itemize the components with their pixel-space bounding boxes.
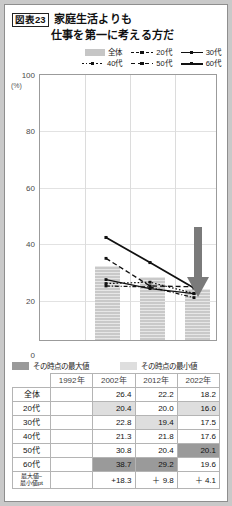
legend-item-zentai: 全体 [85,48,122,57]
legend-item-40s: 40代 [82,59,122,68]
cell-min: 19.4 [135,416,177,430]
y-tick-80: 80 [5,127,35,136]
sublegend-min-label: その時点の最小値 [141,360,197,371]
sublegend-max-label: その時点の最大値 [33,360,89,371]
table-col-2022: 2022年 [177,374,219,388]
y-tick-60: 60 [5,183,35,192]
table-body: 全体 26.4 22.2 18.2 20代 20.4 20.0 16.0 30代… [13,388,220,489]
table-col-2002: 2002年 [93,374,135,388]
table-col-2012: 2012年 [135,374,177,388]
table-row: 40代 21.3 21.8 17.6 [13,430,220,444]
table-corner-cell [13,374,51,388]
table-col-1992: 1992年 [51,374,93,388]
legend-dash-line-icon [131,60,153,68]
legend-label: 20代 [156,48,171,57]
sublegend-max: その時点の最大値 [12,360,120,371]
cell [51,430,93,444]
max-swatch-icon [12,362,29,370]
legend-label: 50代 [156,59,171,68]
table-header-row: 1992年 2002年 2012年 2022年 [13,374,220,388]
legend-label: 30代 [206,48,221,57]
y-axis-unit-label: (%) [11,82,22,89]
legend-bar-swatch-icon [85,49,105,56]
cell [51,388,93,402]
cell [51,458,93,472]
cell [51,444,93,458]
y-tick-20: 20 [5,296,35,305]
legend-dotted-line-icon [82,60,104,68]
table-row: 20代 20.4 20.0 16.0 [13,402,220,416]
cell: 20.4 [135,444,177,458]
y-tick-0: 0 [5,351,35,360]
figure-panel: 図表23 家庭生活よりも 仕事を第一に考える方だ 全体 20代 30代 40代 [4,4,228,502]
cell [51,416,93,430]
series-overlay [40,75,216,340]
title-first-line: 図表23 家庭生活よりも [12,12,221,27]
figure-number-tag: 図表23 [12,13,49,27]
cell [51,402,93,416]
row-label-zentai: 全体 [13,388,51,402]
cell: 21.8 [135,430,177,444]
legend-label: 全体 [108,48,122,57]
table-row: 50代 30.8 20.4 20.1 [13,444,220,458]
cell: 26.4 [93,388,135,402]
cell: 17.6 [177,430,219,444]
legend-label: 40代 [107,59,122,68]
row-label-20s: 20代 [13,402,51,416]
row-label-40s: 40代 [13,430,51,444]
cell-max: 29.2 [135,458,177,472]
chart-legend: 全体 20代 30代 40代 50代 60代 [5,48,227,68]
legend-solid-thick-line-icon [181,60,203,68]
y-axis: (%) 100 80 60 40 20 0 [5,71,35,359]
legend-item-30s: 30代 [181,48,221,57]
sublegend-min: その時点の最小値 [120,360,197,371]
legend-label: 60代 [206,59,221,68]
cell: 18.2 [177,388,219,402]
legend-item-20s: 20代 [131,48,171,57]
cell-max: 20.1 [177,444,219,458]
data-table: 1992年 2002年 2012年 2022年 全体 26.4 22.2 18.… [12,373,220,489]
cell: 17.5 [177,416,219,430]
row-label-50s: 50代 [13,444,51,458]
value-highlight-legend: その時点の最大値 その時点の最小値 [12,360,220,371]
cell: 20.0 [135,402,177,416]
cell: +18.3 [93,472,135,489]
page-title-line2: 仕事を第一に考える方だ [51,28,221,42]
cell: 22.8 [93,416,135,430]
figure-title-block: 図表23 家庭生活よりも 仕事を第一に考える方だ [5,5,227,42]
cell [51,472,93,489]
table-row: 最大値−最小値pt +18.3 ＋ 9.8 ＋ 4.1 [13,472,220,489]
cell: 22.2 [135,388,177,402]
legend-item-50s: 50代 [131,59,171,68]
table-row: 30代 22.8 19.4 17.5 [13,416,220,430]
row-label-60s: 60代 [13,458,51,472]
cell: ＋ 4.1 [177,472,219,489]
legend-item-60s: 60代 [181,59,221,68]
cell: 30.8 [93,444,135,458]
cell-max: 38.7 [93,458,135,472]
cell: ＋ 9.8 [135,472,177,489]
legend-solid-line-icon [181,49,203,57]
cell: 19.6 [177,458,219,472]
min-swatch-icon [120,362,137,370]
y-tick-40: 40 [5,240,35,249]
legend-row-2: 40代 50代 60代 [82,59,221,68]
row-label-30s: 30代 [13,416,51,430]
cell-min: 16.0 [177,402,219,416]
cell-min: 20.4 [93,402,135,416]
row-label-range: 最大値−最小値pt [13,472,51,489]
down-arrow-annotation-icon [185,227,211,299]
table-row: 全体 26.4 22.2 18.2 [13,388,220,402]
chart-plot: (%) 100 80 60 40 20 0 [5,71,227,359]
page-title: 家庭生活よりも [54,12,132,26]
cell: 21.3 [93,430,135,444]
legend-row-1: 全体 20代 30代 [85,48,221,57]
legend-dashdot-line-icon [131,49,153,57]
plot-area [39,74,217,341]
y-tick-100: 100 [5,71,35,80]
table-row: 60代 38.7 29.2 19.6 [13,458,220,472]
